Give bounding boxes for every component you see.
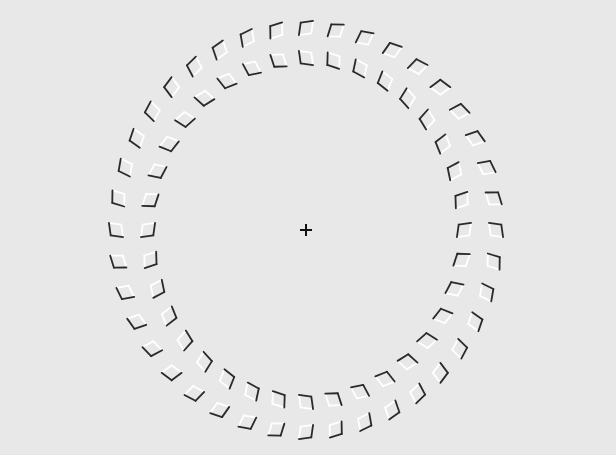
rhombus-element: [375, 69, 395, 92]
rhombus-element: [162, 365, 182, 380]
rhombus-element: [348, 381, 372, 403]
rings-figure: [0, 0, 616, 455]
rhombus-element: [294, 46, 319, 71]
rhombus-element: [106, 250, 131, 274]
fixation-cross-icon: [300, 224, 312, 236]
illusion-canvas: [0, 0, 616, 455]
rhombus-element: [141, 340, 163, 358]
rhombus-element: [208, 400, 232, 420]
rhombus-element: [143, 100, 161, 122]
rhombus-element: [210, 38, 230, 62]
rhombus-element: [294, 390, 319, 415]
rhombus-element: [321, 388, 346, 412]
rhombus-element: [373, 369, 396, 389]
rhombus-element: [194, 90, 215, 107]
rhombus-element: [349, 56, 371, 80]
rhombus-element: [264, 18, 288, 43]
rhombus-element: [475, 280, 497, 305]
rhombus-element: [399, 88, 416, 109]
rhombus-element: [449, 102, 471, 120]
rhombus-element: [240, 57, 264, 79]
rhombus-element: [236, 26, 258, 51]
rhombus-element: [430, 80, 450, 95]
rhombus-element: [419, 109, 436, 130]
rhombus-element: [352, 27, 377, 49]
rhombus-element: [196, 351, 213, 372]
rhombus-element: [416, 332, 437, 349]
rhombus-element: [443, 159, 465, 183]
rhombus-element: [159, 304, 179, 327]
rhombus-element: [474, 156, 499, 178]
rhombus-element: [450, 188, 474, 213]
rhombus-element: [114, 155, 136, 180]
rhombus-element: [409, 382, 427, 404]
rhombus-element: [138, 188, 163, 212]
rhombus-element: [431, 306, 454, 326]
rhombus-element: [215, 71, 238, 91]
rhombus-element: [147, 277, 169, 301]
rhombus-element: [482, 249, 506, 274]
rhombus-element: [235, 411, 260, 433]
rhombus-element: [158, 134, 181, 154]
rhombus-element: [323, 19, 348, 43]
rhombus-element: [484, 218, 509, 243]
rhombus-element: [267, 387, 291, 412]
rhombus-element: [264, 418, 289, 442]
rhombus-element: [294, 16, 319, 41]
rhombus-element: [125, 311, 149, 331]
rhombus-element: [294, 420, 319, 445]
rhombus-element: [136, 218, 161, 243]
rhombus-element: [451, 338, 469, 360]
rhombus-element: [217, 367, 237, 390]
rhombus-element: [183, 384, 205, 402]
rhombus-element: [433, 363, 448, 383]
rhombus-element: [452, 218, 477, 243]
rhombus-element: [126, 126, 146, 150]
rhombus-element: [164, 77, 179, 97]
rhombus-element: [442, 278, 466, 300]
rhombus-element: [382, 398, 402, 422]
rhombus-element: [104, 218, 129, 243]
rhombus-element: [463, 128, 487, 148]
rhombus-element: [433, 132, 453, 155]
rhombus-element: [241, 379, 263, 403]
rhombus-element: [177, 330, 194, 351]
rhombus-element: [145, 160, 169, 182]
rhombus-element: [397, 353, 418, 370]
rhombus-element: [174, 111, 195, 128]
rhombus-element: [407, 58, 429, 76]
rhombus-element: [106, 186, 130, 211]
rhombus-element: [449, 248, 474, 272]
rhombus-element: [465, 310, 485, 334]
rhombus-element: [380, 40, 404, 60]
rhombus-element: [324, 417, 348, 442]
rhombus-element: [481, 186, 506, 210]
rhombus-element: [139, 247, 163, 272]
rhombus-element: [353, 410, 375, 435]
rhombus-element: [185, 56, 203, 78]
rhombus-element: [322, 48, 346, 73]
rhombus-element: [113, 281, 138, 303]
rhombus-element: [266, 49, 291, 73]
